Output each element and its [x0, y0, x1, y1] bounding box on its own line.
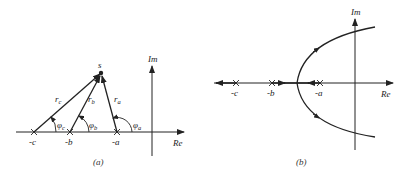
- figure-svg: Im Re s -c -b -a φc φb φa rc rb ra: [0, 0, 404, 180]
- angle-arc-c: [51, 117, 56, 132]
- pole-b-label-b: -b: [267, 88, 275, 98]
- locus-upper-branch: [297, 27, 375, 83]
- locus-lower-branch: [297, 83, 375, 137]
- vector-label-rb: rb: [88, 94, 96, 105]
- im-label-a: Im: [147, 54, 158, 64]
- panel-b: Im Re -c -b -a (b): [214, 7, 393, 167]
- pole-c-label-a: -c: [29, 137, 36, 147]
- pole-c-label-b: -c: [231, 88, 238, 98]
- angle-arc-b: [79, 116, 89, 132]
- angle-label-a: φa: [133, 120, 141, 131]
- angle-label-b: φb: [89, 120, 98, 131]
- vector-label-ra: ra: [114, 94, 121, 105]
- point-s: [99, 71, 103, 75]
- root-locus-figure: Im Re s -c -b -a φc φb φa rc rb ra: [0, 0, 404, 180]
- caption-b: (b): [296, 157, 307, 167]
- vector-ra: [102, 76, 117, 132]
- panel-a: Im Re s -c -b -a φc φb φa rc rb ra: [16, 54, 184, 167]
- im-label-b: Im: [350, 7, 361, 17]
- pole-a-label-a: -a: [112, 137, 120, 147]
- angle-label-c: φc: [57, 120, 65, 131]
- re-label-b: Re: [380, 89, 391, 99]
- caption-a: (a): [93, 157, 104, 167]
- pole-a-label-b: -a: [315, 88, 323, 98]
- point-s-label: s: [98, 60, 102, 70]
- vector-label-rc: rc: [55, 94, 62, 105]
- pole-b-label-a: -b: [65, 137, 73, 147]
- upper-branch-arrow: [313, 48, 319, 52]
- re-label-a: Re: [172, 138, 183, 148]
